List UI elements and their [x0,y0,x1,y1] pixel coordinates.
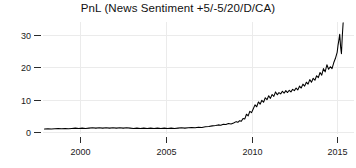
y-tick-label: 10 [21,96,31,106]
x-tick-label: 2005 [156,147,176,157]
x-tick-label: 2010 [242,147,262,157]
data-layer [45,23,344,129]
x-tick-label: 2000 [70,147,90,157]
gridlines-layer [43,22,355,134]
y-tick-label: 0 [26,128,31,138]
ticks-layer [34,36,338,144]
x-tick-label: 2015 [327,147,347,157]
ticklabels-layer: 01020302000200520102015 [21,31,348,157]
y-tick-label: 20 [21,63,31,73]
chart-figure: PnL (News Sentiment +5/-5/20/D/CA) 01020… [0,0,356,168]
data-series-line [45,23,344,129]
y-tick-label: 30 [21,31,31,41]
line-chart-plot: 01020302000200520102015 [0,0,356,168]
